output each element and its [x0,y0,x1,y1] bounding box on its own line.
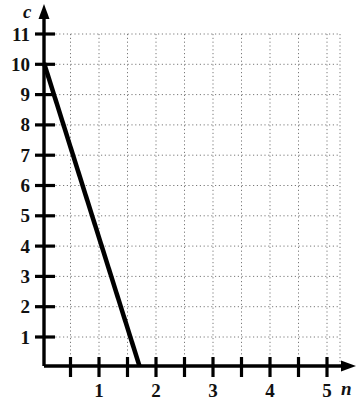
x-tick-label-2: 2 [144,381,168,400]
data-line-series-0 [44,63,139,366]
x-tick-label-3: 3 [201,381,225,400]
y-tick-label-5: 5 [0,206,30,225]
y-tick-label-9: 9 [0,85,30,104]
y-tick-label-11: 11 [0,25,30,44]
grid-vertical [71,34,341,366]
x-tick-label-5: 5 [315,381,339,400]
y-tick-label-8: 8 [0,115,30,134]
x-tick-label-4: 4 [258,381,282,400]
y-tick-label-7: 7 [0,146,30,165]
y-tick-label-6: 6 [0,176,30,195]
plot-area [0,0,357,403]
y-tick-label-1: 1 [0,328,30,347]
y-axis-arrowhead [39,4,50,19]
y-tick-label-3: 3 [0,267,30,286]
y-tick-label-10: 10 [0,55,30,74]
y-axis-label: c [23,2,31,21]
grid-horizontal [44,34,340,337]
line-chart: 11 10 9 8 7 6 5 4 3 2 1 1 2 3 4 5 c n [0,0,357,403]
x-axis-arrowhead [341,361,356,372]
x-tick-label-1: 1 [87,381,111,400]
y-tick-label-4: 4 [0,237,30,256]
y-tick-label-2: 2 [0,297,30,316]
x-axis-label: n [341,379,352,398]
